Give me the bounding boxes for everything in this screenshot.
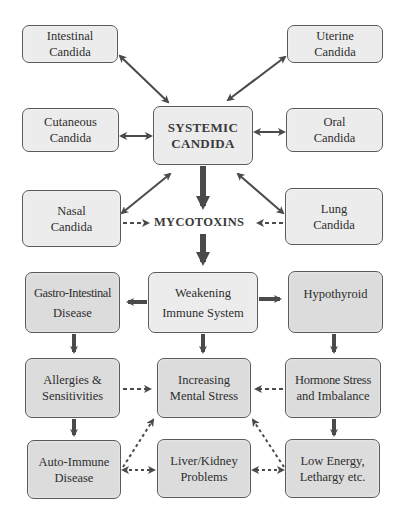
node-label-line1: Low Energy, — [300, 453, 366, 469]
edge-lung-systemic — [238, 174, 283, 213]
node-label-line2: and Imbalance — [295, 388, 371, 404]
node-label-line1: Nasal — [51, 203, 93, 219]
node-label-line2: Candida — [313, 217, 355, 233]
node-label-line2: Candida — [44, 130, 97, 146]
node-label-line1: Intestinal — [47, 28, 94, 44]
node-label-line2: Candida — [51, 219, 93, 235]
node-nasal-candida: NasalCandida — [22, 190, 121, 247]
edge-autoimmune-mental — [123, 420, 153, 467]
node-systemic-candida: SYSTEMICCANDIDA — [153, 106, 253, 165]
node-cutaneous-candida: CutaneousCandida — [22, 108, 119, 152]
node-label-line1: Allergies & — [42, 372, 103, 388]
node-allergies-sensitivities: Allergies &Sensitivities — [25, 358, 120, 418]
node-low-energy-lethargy: Low Energy,Lethargy etc. — [285, 439, 380, 498]
node-auto-immune-disease: Auto-ImmuneDisease — [27, 440, 121, 499]
node-label-line1: Uterine — [314, 28, 356, 44]
node-label-line1: Oral — [314, 114, 356, 130]
node-label-line2: CANDIDA — [168, 136, 238, 152]
node-label-line2: Disease — [34, 305, 111, 321]
node-intestinal-candida: IntestinalCandida — [22, 25, 118, 63]
edge-nasal-systemic — [122, 174, 170, 213]
edge-uterine-systemic — [228, 57, 285, 100]
node-label-line1: Gastro-Intestinal — [34, 285, 111, 301]
node-label-line1: Liver/Kidney — [170, 453, 237, 469]
node-label-line1: Hypothyroid — [304, 286, 368, 302]
node-label-line2: Candida — [47, 44, 94, 60]
node-label-line1: Auto-Immune — [39, 454, 110, 470]
node-label-line2: Immune System — [162, 305, 244, 321]
edge-lowenergy-mental — [253, 420, 284, 467]
node-label-line1: Hormone Stress — [295, 372, 371, 388]
node-gastro-intestinal-disease: Gastro-IntestinalDisease — [25, 272, 120, 333]
node-label-line2: Disease — [39, 470, 110, 486]
node-label-line2: Candida — [314, 130, 356, 146]
node-label-line2: Candida — [314, 44, 356, 60]
node-oral-candida: OralCandida — [286, 108, 383, 152]
node-label-line2: Mental Stress — [170, 388, 238, 404]
node-label-line1: Increasing — [170, 372, 238, 388]
edge-intestinal-systemic — [120, 56, 168, 102]
node-hormone-stress-imbalance: Hormone Stressand Imbalance — [285, 358, 381, 418]
node-liver-kidney-problems: Liver/KidneyProblems — [157, 439, 251, 498]
node-lung-candida: LungCandida — [285, 188, 383, 245]
node-label-line1: SYSTEMIC — [168, 120, 238, 136]
node-label-line1: Lung — [313, 201, 355, 217]
node-label-line2: Sensitivities — [42, 388, 103, 404]
node-label-line1: Weakening — [162, 285, 244, 301]
node-label-line1: Cutaneous — [44, 114, 97, 130]
node-hypothyroid: Hypothyroid — [288, 271, 383, 333]
node-weakening-immune-system: WeakeningImmune System — [148, 272, 258, 333]
node-label-line2: Lethargy etc. — [300, 469, 366, 485]
node-increasing-mental-stress: IncreasingMental Stress — [157, 358, 251, 418]
mycotoxins-label: MYCOTOXINS — [154, 215, 244, 230]
node-uterine-candida: UterineCandida — [287, 25, 383, 63]
node-label-line2: Problems — [170, 469, 237, 485]
